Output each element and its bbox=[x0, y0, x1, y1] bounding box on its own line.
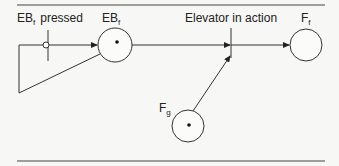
token-dot-icon bbox=[115, 40, 119, 44]
inhibitor-circle-icon bbox=[43, 42, 49, 48]
place-ebf-circle bbox=[98, 28, 132, 62]
place-ebf: EBf bbox=[98, 11, 132, 62]
transition-eb-pressed: EBfpressed bbox=[17, 11, 83, 61]
inhibitor-feedback-arc bbox=[19, 45, 100, 93]
token-dot-icon bbox=[187, 123, 191, 127]
place-ebf-label: EBf bbox=[102, 11, 121, 27]
petri-net-diagram: EBfpressed EBf Elevator in action Ff Fg bbox=[0, 0, 339, 166]
place-ff: Ff bbox=[290, 11, 322, 61]
transition-elevator-label: Elevator in action bbox=[185, 11, 277, 25]
transition-eb-pressed-label: EBfpressed bbox=[17, 11, 83, 27]
place-ff-label: Ff bbox=[301, 11, 311, 27]
transition-elevator-in-action: Elevator in action bbox=[185, 11, 277, 58]
place-fg: Fg bbox=[159, 101, 204, 142]
place-fg-label: Fg bbox=[159, 101, 171, 117]
arc-fg-to-t2 bbox=[193, 56, 230, 111]
place-ff-circle bbox=[290, 29, 322, 61]
